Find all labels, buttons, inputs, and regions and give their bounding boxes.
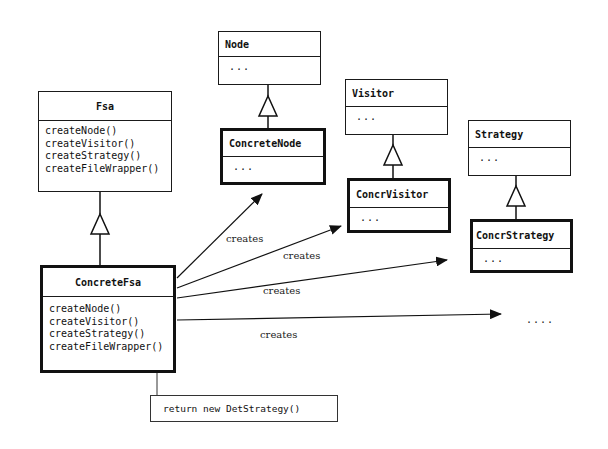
method: createNode() [49,303,167,316]
class-visitor[interactable]: Visitor ... [345,79,448,135]
more-classes-ellipsis: .... [526,314,554,325]
class-fsa-name: Fsa [39,92,171,121]
class-concrete-fsa-methods: createNode() createVisitor() createStrat… [43,297,173,357]
class-strategy-body: ... [469,148,570,167]
class-concr-strategy-body: ... [473,249,570,268]
class-node-body: ... [219,57,320,76]
inheritance-concretefsa-fsa [91,191,109,265]
method: createStrategy() [45,150,165,163]
creates-label-node: creates [226,233,263,244]
class-concrete-node-body: ... [223,157,323,176]
inheritance-concretenode-node [259,84,277,128]
creates-label-visitor: creates [283,250,320,261]
class-concr-visitor-name: ConcrVisitor [350,181,448,208]
method: createVisitor() [45,138,165,151]
method: createFileWrapper() [49,341,167,354]
class-concr-visitor[interactable]: ConcrVisitor ... [347,178,451,233]
class-node-name: Node [219,32,320,57]
class-node[interactable]: Node ... [218,31,321,85]
note-det-strategy: return new DetStrategy() [150,395,338,422]
class-fsa-methods: createNode() createVisitor() createStrat… [39,121,171,179]
class-strategy[interactable]: Strategy ... [468,120,571,176]
inheritance-concrvisitor-visitor [384,134,402,178]
class-visitor-body: ... [346,107,447,126]
creates-label-strategy: creates [263,285,300,296]
method: createNode() [45,125,165,138]
creates-label-more: creates [260,329,297,340]
class-fsa[interactable]: Fsa createNode() createVisitor() createS… [38,91,172,192]
class-concrete-node[interactable]: ConcreteNode ... [220,128,326,185]
class-concrete-fsa-name: ConcreteFsa [43,268,173,297]
method: createStrategy() [49,328,167,341]
class-concr-visitor-body: ... [350,208,448,227]
method: createVisitor() [49,316,167,329]
class-concrete-node-name: ConcreteNode [223,131,323,157]
class-visitor-name: Visitor [346,80,447,107]
class-concrete-fsa[interactable]: ConcreteFsa createNode() createVisitor()… [40,265,176,373]
class-strategy-name: Strategy [469,121,570,148]
creates-arrow-more [177,314,501,320]
class-concr-strategy[interactable]: ConcrStrategy ... [470,219,573,273]
method: createFileWrapper() [45,163,165,176]
creates-arrow-strategy [177,260,447,298]
inheritance-concrstrategy-strategy [507,175,525,219]
class-concr-strategy-name: ConcrStrategy [473,222,570,249]
